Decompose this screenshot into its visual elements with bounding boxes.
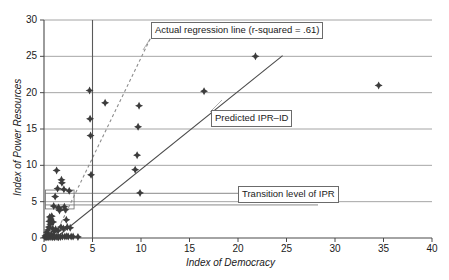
predicted-ipr-annotation: Predicted IPR–ID (211, 110, 292, 127)
x-tick-label-8: 40 (417, 243, 447, 254)
x-tick-label-6: 30 (320, 243, 350, 254)
data-point (133, 151, 141, 159)
data-point (54, 185, 62, 193)
x-tick-label-2: 10 (126, 243, 156, 254)
transition-level-annotation: Transition level of IPR (238, 186, 339, 203)
axis-frame (40, 20, 432, 242)
x-tick-label-4: 20 (223, 243, 253, 254)
actual-regression-annotation: Actual regression line (r-squared = .61) (151, 22, 323, 39)
data-point (51, 193, 59, 201)
scatter-chart: 0510152025303540 051015202530 Index of D… (0, 0, 449, 280)
actual-regression-line (54, 26, 157, 238)
data-point (375, 81, 383, 89)
y-axis-title: Index of Power Resources (12, 79, 23, 196)
y-tick-label-1: 5 (13, 196, 37, 207)
data-point (200, 87, 208, 95)
data-point (60, 185, 68, 193)
y-tick-label-6: 30 (13, 14, 37, 25)
plot-area (0, 0, 449, 280)
data-point (136, 189, 144, 197)
data-point (87, 171, 95, 179)
data-point (251, 52, 259, 60)
data-point (74, 233, 82, 241)
predicted-ipr-id-line (56, 56, 283, 238)
y-tick-label-5: 25 (13, 50, 37, 61)
x-tick-label-3: 15 (175, 243, 205, 254)
data-point (87, 132, 95, 140)
x-tick-label-0: 0 (29, 243, 59, 254)
y-tick-label-0: 0 (13, 232, 37, 243)
x-axis-title: Index of Democracy (186, 257, 275, 268)
data-point (101, 99, 109, 107)
data-point (135, 102, 143, 110)
x-tick-label-5: 25 (272, 243, 302, 254)
data-point (134, 123, 142, 131)
data-point (53, 166, 61, 174)
x-tick-label-1: 5 (78, 243, 108, 254)
x-tick-label-7: 35 (369, 243, 399, 254)
